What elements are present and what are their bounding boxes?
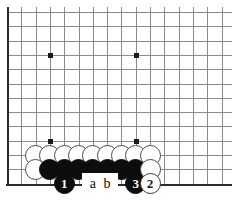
go-diagram: ab132 bbox=[0, 0, 232, 224]
move-stone-1: 1 bbox=[54, 173, 75, 194]
move-stone-2: 2 bbox=[140, 173, 161, 194]
letter-marker: b bbox=[97, 173, 118, 194]
marker-layer: ab132 bbox=[0, 0, 232, 224]
